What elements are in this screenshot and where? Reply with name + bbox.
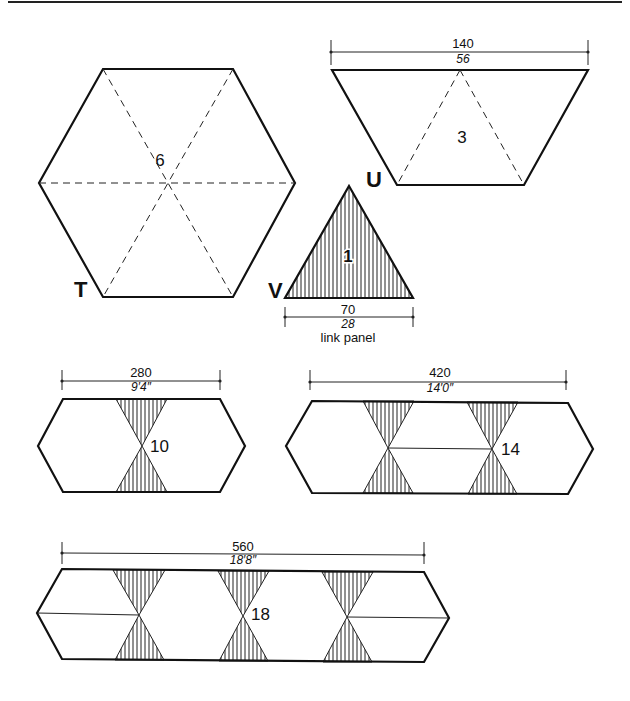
- link-panel-caption: link panel: [321, 330, 376, 345]
- assembly-14-count: 14: [501, 440, 520, 459]
- dim-28: 28: [340, 317, 355, 331]
- hexagon-t: 6 T: [39, 69, 295, 302]
- dim-280: 280: [130, 365, 152, 380]
- label-u: U: [366, 167, 382, 192]
- dim-56: 56: [456, 52, 470, 66]
- assembly-14: 420 14′0″ 14: [286, 365, 593, 494]
- label-v: V: [268, 278, 283, 303]
- dim-70: 70: [341, 302, 355, 317]
- hexagon-panel-count: 6: [155, 151, 164, 170]
- assembly-18: 560 18′8″ 18: [37, 539, 449, 662]
- dim-18-8: 18′8″: [230, 553, 257, 567]
- triangle-panel-count: 1: [343, 247, 352, 266]
- dim-420: 420: [429, 365, 451, 380]
- label-t: T: [74, 277, 88, 302]
- dim-560: 560: [232, 539, 254, 554]
- panel-layout-diagram: 6 T 140 56 3 U 1 V 70 28 link panel: [0, 0, 630, 701]
- assembly-18-count: 18: [251, 605, 270, 624]
- assembly-10-count: 10: [150, 437, 169, 456]
- assembly-10: 280 9′4″ 10: [38, 365, 245, 492]
- triangle-v-link-panel: 1 V 70 28 link panel: [268, 186, 415, 345]
- dim-140: 140: [452, 36, 474, 51]
- trapezoid-panel-count: 3: [457, 128, 466, 147]
- dim-14-0: 14′0″: [427, 381, 454, 395]
- dim-9-4: 9′4″: [131, 380, 152, 394]
- trapezoid-u: 140 56 3 U: [329, 36, 589, 192]
